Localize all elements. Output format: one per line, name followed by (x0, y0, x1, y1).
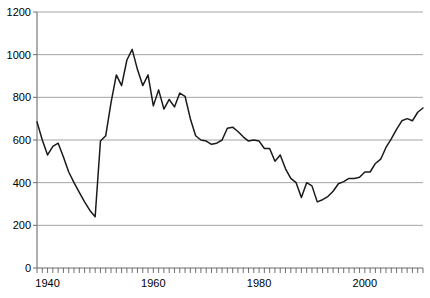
data-line-1 (37, 49, 423, 216)
chart-canvas (0, 0, 430, 298)
x-axis-minor-ticks (37, 268, 423, 273)
gridlines (37, 12, 423, 225)
y-axis-major-ticks (33, 12, 37, 268)
data-series-group (37, 49, 423, 216)
line-chart: 020040060080010001200 1940196019802000 (0, 0, 430, 298)
